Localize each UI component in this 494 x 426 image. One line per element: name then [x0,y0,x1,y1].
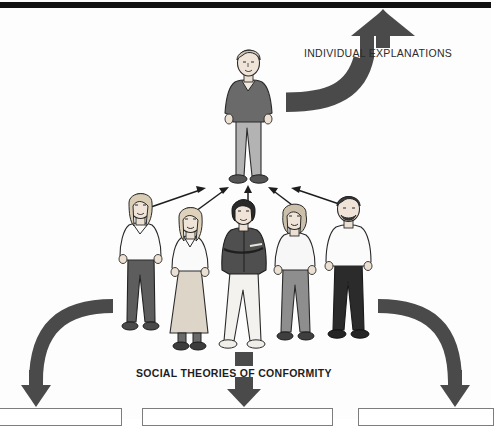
group-figure-5 [325,197,372,339]
outcome-box-2[interactable] [142,408,333,426]
group-figure-4 [274,204,316,340]
individual-explanations-arrow [286,9,415,112]
social-theories-right-arrow [378,299,470,407]
group-figure-3 [219,200,266,349]
lone-individual-figure [225,50,272,183]
group-figure-1 [119,194,162,331]
group-figure-2 [170,208,209,351]
social-theories-center-arrow [227,352,261,407]
outcome-box-3[interactable] [358,408,494,426]
converging-arrow-1 [151,186,206,207]
social-theories-label: SOCIAL THEORIES OF CONFORMITY [136,367,332,379]
individual-explanations-label: INDIVIDUAL EXPLANATIONS [304,47,452,59]
social-theories-left-arrow [21,299,113,407]
outcome-box-1[interactable] [0,408,122,426]
